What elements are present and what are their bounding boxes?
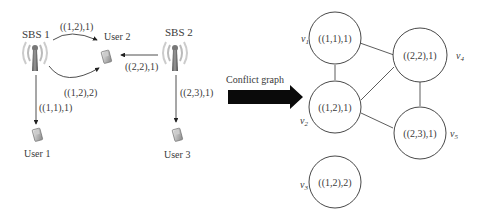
sbs1-tower-icon	[23, 42, 47, 71]
user2-label: User 2	[104, 31, 130, 42]
user1-phone-icon	[32, 128, 43, 142]
sbs2-tower-icon	[163, 42, 187, 71]
diagram-canvas: SBS 1 SBS 2 User 2 User 1 User 3 ((1,2),…	[0, 0, 481, 219]
vertex-name: v1	[301, 33, 309, 46]
link-label: ((1,2),2)	[64, 87, 97, 99]
vertex-v1: ((1,1),1) v1	[301, 12, 361, 64]
link-label: ((1,2),1)	[60, 21, 93, 33]
link-label: ((1,1),1)	[39, 102, 72, 114]
user3-phone-icon	[172, 128, 183, 142]
vertex-v4: ((2,2),1) v4	[393, 28, 464, 82]
vertex-v2: ((1,2),1) v2	[300, 81, 361, 133]
vertex-v3: ((1,2),2) v3	[300, 156, 361, 208]
svg-text:((1,1),1): ((1,1),1)	[318, 33, 351, 45]
sbs2-label: SBS 2	[165, 26, 193, 38]
conflict-graph-arrow-icon	[228, 85, 303, 109]
sbs1-label: SBS 1	[22, 28, 50, 40]
conflict-graph-label: Conflict graph	[226, 74, 284, 85]
link-sbs1-user2-a	[53, 34, 97, 40]
link-sbs1-user2-b	[49, 66, 99, 78]
vertex-name: v3	[300, 179, 308, 192]
svg-text:((1,2),2): ((1,2),2)	[318, 177, 351, 189]
vertex-v5: ((2,3),1) v5	[394, 107, 458, 159]
user3-label: User 3	[164, 149, 190, 160]
vertex-name: v4	[456, 50, 464, 63]
vertex-name: v5	[450, 128, 458, 141]
svg-text:((2,3),1): ((2,3),1)	[403, 128, 436, 140]
svg-text:((2,2),1): ((2,2),1)	[403, 50, 436, 62]
link-label: ((2,2),1)	[125, 61, 158, 73]
vertex-name: v2	[300, 115, 308, 128]
svg-text:((1,2),1): ((1,2),1)	[318, 102, 351, 114]
link-label: ((2,3),1)	[180, 87, 213, 99]
user2-phone-icon	[101, 50, 112, 64]
user1-label: User 1	[24, 148, 50, 159]
